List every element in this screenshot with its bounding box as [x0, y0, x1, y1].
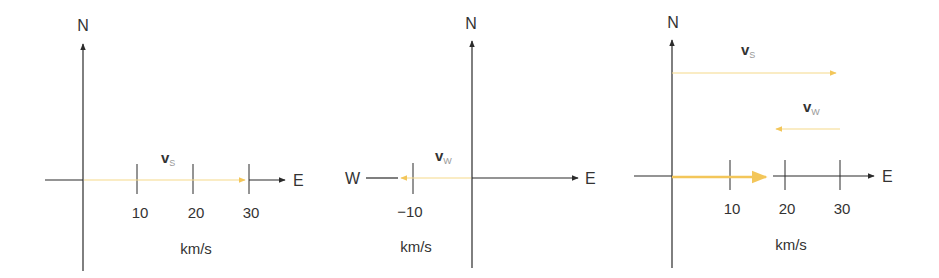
tick-label: 30	[243, 204, 260, 221]
tick-label: −10	[397, 203, 422, 220]
tick-label: 10	[132, 204, 149, 221]
west-label: W	[345, 170, 361, 187]
vector-diagram: N E 10 20 30 km/s vS N W E −10 km/s vW N…	[0, 0, 939, 278]
panel-vector-sum: N E 10 20 30 km/s vS vW	[634, 14, 893, 268]
east-label: E	[882, 168, 893, 185]
north-label: N	[465, 15, 477, 32]
vector-vw-label: vW	[803, 98, 820, 117]
tick-label: 20	[779, 200, 796, 217]
vector-vs-label: vS	[741, 41, 755, 60]
vector-vs-label: vS	[161, 149, 175, 168]
vector-vw-label: vW	[435, 147, 452, 166]
tick-label: 20	[188, 204, 205, 221]
east-label: E	[585, 170, 596, 187]
panel-wind-velocity: N W E −10 km/s vW	[345, 15, 596, 268]
north-label: N	[667, 14, 679, 31]
units-label: km/s	[775, 236, 807, 253]
units-label: km/s	[180, 240, 212, 257]
units-label: km/s	[400, 238, 432, 255]
east-label: E	[293, 172, 304, 189]
north-label: N	[77, 17, 89, 34]
tick-label: 10	[724, 200, 741, 217]
tick-label: 30	[834, 200, 851, 217]
panel-ship-velocity: N E 10 20 30 km/s vS	[45, 17, 304, 271]
